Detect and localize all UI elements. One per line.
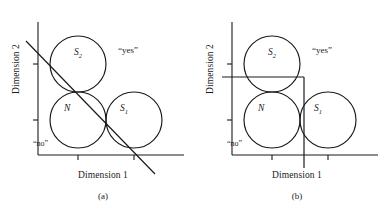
circle-s2-b	[244, 36, 300, 92]
region-label-yes-b: “yes”	[312, 45, 332, 55]
panel-a: Dimension 2 Dimension 1 (a) “yes” “no” S…	[0, 0, 194, 214]
set-label-n-b-name: N	[258, 103, 264, 113]
y-axis-label-a: Dimension 2	[11, 17, 21, 121]
panel-caption-b: (b)	[222, 191, 372, 201]
circle-s2-a	[50, 36, 106, 92]
set-label-n-a: N	[64, 103, 70, 113]
circle-n-a	[50, 92, 106, 148]
x-axis-label-b: Dimension 1	[222, 170, 372, 180]
set-label-s1-a: S1	[120, 103, 128, 115]
set-label-s2-b-subscript: 2	[273, 52, 276, 59]
set-label-s1-b: S1	[314, 103, 322, 115]
region-label-yes-a: “yes”	[118, 45, 138, 55]
panel-b: Dimension 2 Dimension 1 (b) “yes” “no” S…	[194, 0, 388, 214]
panel-b-plot	[194, 0, 388, 214]
circle-s1-a	[106, 92, 162, 148]
panel-caption-a: (a)	[28, 191, 178, 201]
set-label-n-a-name: N	[64, 103, 70, 113]
set-label-s1-a-subscript: 1	[125, 108, 128, 115]
y-axis-label-b: Dimension 2	[205, 17, 215, 121]
x-axis-label-a: Dimension 1	[28, 170, 178, 180]
region-label-no-a: “no”	[33, 139, 48, 148]
region-label-no-b: “no”	[227, 139, 242, 148]
figure-container: Dimension 2 Dimension 1 (a) “yes” “no” S…	[0, 0, 388, 214]
circle-n-b	[244, 92, 300, 148]
panel-a-plot	[0, 0, 194, 214]
set-label-s2-a-subscript: 2	[79, 52, 82, 59]
decision-boundary-diagonal-a	[26, 41, 155, 174]
set-label-n-b: N	[258, 103, 264, 113]
circle-s1-b	[300, 92, 356, 148]
set-label-s2-a: S2	[74, 47, 82, 59]
set-label-s1-b-subscript: 1	[319, 108, 322, 115]
set-label-s2-b: S2	[268, 47, 276, 59]
